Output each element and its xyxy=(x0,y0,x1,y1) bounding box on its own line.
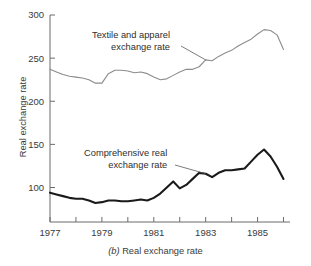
y-tick-label: 250 xyxy=(28,53,44,64)
chart-figure: 10015020025030019771979198119831985 Text… xyxy=(0,0,311,266)
y-tick-label: 300 xyxy=(28,9,44,20)
figure-caption-text: Real exchange rate xyxy=(122,246,203,256)
annotation-textile-line1: Textile and apparel xyxy=(92,30,170,42)
x-tick-label: 1981 xyxy=(143,227,164,238)
y-tick-label: 200 xyxy=(28,96,44,107)
y-tick-label: 150 xyxy=(28,139,44,150)
annotation-leader-textile xyxy=(181,46,206,60)
y-tick-label: 100 xyxy=(28,182,44,193)
annotation-textile: Textile and apparel exchange rate xyxy=(92,30,170,53)
annotation-textile-line2: exchange rate xyxy=(92,42,170,54)
x-tick-label: 1979 xyxy=(91,227,112,238)
figure-caption-id: (b) xyxy=(108,246,119,256)
x-tick-label: 1983 xyxy=(195,227,216,238)
x-tick-label: 1985 xyxy=(247,227,268,238)
annotation-comprehensive-line2: exchange rate xyxy=(84,160,167,172)
annotation-leader-comprehensive xyxy=(175,165,206,174)
annotation-comprehensive-line1: Comprehensive real xyxy=(84,148,167,160)
annotation-comprehensive: Comprehensive real exchange rate xyxy=(84,148,167,171)
x-tick-label: 1977 xyxy=(39,227,60,238)
figure-caption: (b) Real exchange rate xyxy=(0,246,311,256)
y-axis-label: Real exchange rate xyxy=(18,52,28,182)
